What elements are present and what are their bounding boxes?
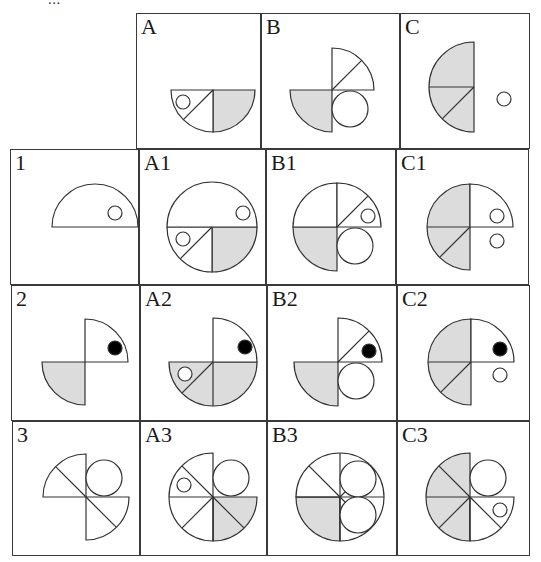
cell-label: C [405,16,420,38]
grid-cell-b3: B3 [267,421,397,556]
grid-cell-a: A [136,13,261,149]
large-circle [470,460,506,496]
cell-label: A2 [145,288,172,310]
header-text-cut: ... [48,0,61,8]
small-circle [493,503,507,517]
cell-label: B3 [272,424,298,446]
small-circle [176,95,190,109]
shaded-sector [296,497,340,541]
figure-b [262,14,399,148]
shaded-sector [294,362,338,406]
shaded-sector [213,90,255,132]
blank-sector [293,183,337,227]
small-circle [490,209,504,223]
shaded-sector [293,227,337,271]
cell-label: C1 [401,152,427,174]
filled-dot [108,341,122,355]
figure-c [401,14,529,148]
shaded-sector [212,227,257,272]
large-circle [332,91,368,127]
grid-cell-c3: C3 [397,421,530,556]
cell-label: 2 [16,288,27,310]
cell-label: 1 [15,152,26,174]
blank-sector [471,319,514,362]
filled-dot [493,342,507,356]
cell-label: A [141,16,157,38]
cell-label: A3 [145,424,172,446]
small-circle [361,209,375,223]
large-circle [340,497,376,533]
grid-cell-2: 2 [11,285,140,421]
filled-dot [362,344,376,358]
small-circle [493,368,507,382]
grid-cell-c1: C1 [396,149,529,285]
figure-3 [13,422,139,555]
cell-label: B2 [272,288,298,310]
filled-dot [238,340,252,354]
blank-sector [213,318,257,362]
cell-label: B1 [271,152,297,174]
figure-2 [12,286,139,420]
shaded-sector [290,90,332,132]
small-circle [108,206,122,220]
shaded-sector [42,362,85,405]
grid-cell-b1: B1 [266,149,396,285]
small-circle [178,367,192,381]
grid-cell-a3: A3 [140,421,267,556]
grid-cell-b2: B2 [267,285,397,421]
cell-label: 3 [17,424,28,446]
grid-cell-a2: A2 [140,285,267,421]
cell-label: A1 [144,152,171,174]
cell-label: C3 [402,424,428,446]
large-circle [86,460,122,496]
grid-cell-c2: C2 [397,285,530,421]
grid-cell-a1: A1 [139,149,266,285]
blank-sector [52,184,138,227]
cell-label: C2 [402,288,428,310]
small-circle [236,206,250,220]
blank-sector [85,319,128,362]
small-circle [490,234,504,248]
large-circle [338,363,374,399]
small-circle [176,232,190,246]
large-circle [340,461,376,497]
small-circle [497,92,511,106]
cell-label: B [266,16,281,38]
large-circle [213,460,249,496]
small-circle [177,478,191,492]
grid-cell-b: B [261,13,400,149]
grid-cell-3: 3 [12,421,140,556]
figure-1 [11,150,138,284]
grid-cell-1: 1 [10,149,139,285]
large-circle [337,228,373,264]
grid-cell-c: C [400,13,530,149]
